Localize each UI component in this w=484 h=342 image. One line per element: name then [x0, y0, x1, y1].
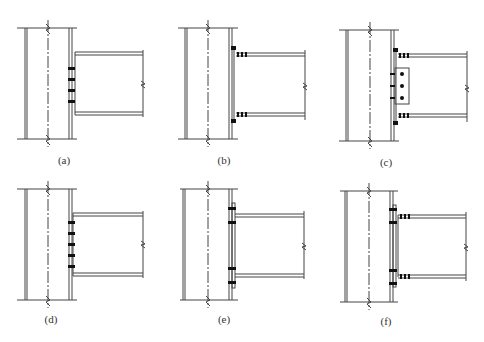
- panel-e: (e): [160, 171, 320, 342]
- panel-label: (d): [31, 313, 71, 325]
- panel-label: (b): [204, 154, 244, 166]
- panel-a: (a): [0, 0, 160, 171]
- panel-c: (c): [320, 0, 480, 171]
- panel-c-drawing: [320, 0, 484, 171]
- panel-f: (f): [320, 171, 480, 342]
- panel-label: (c): [366, 156, 406, 168]
- panel-b-drawing: [160, 0, 320, 171]
- panel-a-drawing: [0, 0, 160, 171]
- panel-label: (f): [366, 315, 406, 327]
- panel-label: (a): [44, 154, 84, 166]
- panel-label: (e): [204, 313, 244, 325]
- panel-d: (d): [0, 171, 160, 342]
- panel-b: (b): [160, 0, 320, 171]
- panel-d-drawing: [0, 171, 160, 342]
- connection-details-figure: (a) (b): [0, 0, 484, 342]
